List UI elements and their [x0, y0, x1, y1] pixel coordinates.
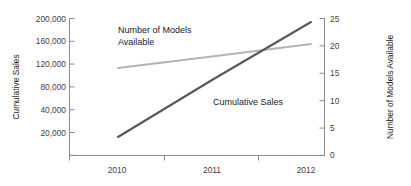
left-axis-tick-label: 80,000 [40, 82, 66, 92]
left-axis-tick-label: 20,000 [40, 128, 66, 138]
right-axis-tick-label: 20 [330, 41, 340, 51]
right-axis [320, 18, 325, 155]
x-axis-tick-label: 2012 [297, 165, 316, 175]
chart-canvas: 200,000 160,000 120,000 80,000 40,000 20… [0, 0, 411, 186]
right-axis-tick-label: 5 [330, 123, 335, 133]
right-axis-tick-label: 25 [330, 14, 340, 24]
right-axis-tick-label: 15 [330, 68, 340, 78]
series-line-models-available [118, 44, 311, 68]
left-axis-tick-label: 120,000 [36, 59, 67, 69]
left-axis-tick-label: 40,000 [40, 105, 66, 115]
left-axis-title: Cumulative Sales [11, 54, 21, 119]
right-axis-tick-label: 10 [330, 96, 340, 106]
x-axis-tick-label: 2011 [203, 165, 221, 175]
right-axis-tick-label: 0 [330, 150, 335, 160]
left-axis [70, 18, 75, 155]
right-axis-title: Number of Models Available [385, 35, 395, 139]
left-axis-tick-label: 160,000 [36, 36, 67, 46]
chart-container: 200,000 160,000 120,000 80,000 40,000 20… [0, 0, 411, 186]
series-annotation-models-available-line2: Available [118, 37, 154, 47]
left-axis-tick-label: 200,000 [36, 14, 67, 24]
series-annotation-models-available-line1: Number of Models [118, 25, 192, 35]
series-annotation-cumulative-sales: Cumulative Sales [213, 97, 284, 107]
bottom-axis [69, 156, 325, 161]
x-axis-tick-label: 2010 [108, 165, 127, 175]
